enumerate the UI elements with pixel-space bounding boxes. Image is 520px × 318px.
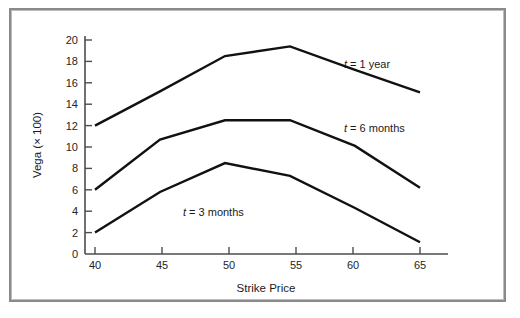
- y-tick-label: 18: [66, 55, 78, 67]
- y-tick-18: 18: [66, 55, 92, 67]
- y-tick-label: 16: [66, 77, 78, 89]
- x-tick-label: 60: [347, 259, 359, 271]
- y-tick-12: 12: [66, 120, 92, 132]
- chart-screenshot: 20 18 16 14 12 10 8 6 4 2: [0, 0, 520, 318]
- series-group: [95, 46, 420, 242]
- x-tick-40: 40: [89, 247, 101, 271]
- axes-group: [85, 36, 448, 254]
- y-tick-0: 0: [72, 248, 78, 260]
- x-axis-ticks: 40 45 50 55 60 65: [89, 247, 426, 271]
- y-tick-label: 2: [72, 227, 78, 239]
- y-tick-label: 4: [72, 205, 78, 217]
- vega-vs-strike-price-line-chart: 20 18 16 14 12 10 8 6 4 2: [11, 10, 504, 300]
- x-axis-title: Strike Price: [237, 282, 296, 294]
- x-tick-55: 55: [290, 247, 302, 271]
- y-axis-title: Vega (× 100): [31, 112, 43, 178]
- y-tick-16: 16: [66, 77, 92, 89]
- series-line-3-months: [95, 163, 420, 242]
- y-tick-6: 6: [72, 184, 92, 196]
- x-tick-label: 65: [414, 259, 426, 271]
- x-tick-label: 55: [290, 259, 302, 271]
- x-tick-65: 65: [414, 247, 426, 271]
- x-tick-45: 45: [156, 247, 168, 271]
- x-tick-label: 50: [223, 259, 235, 271]
- y-tick-label: 0: [72, 248, 78, 260]
- y-tick-20: 20: [66, 34, 92, 46]
- annotation-1-year: t= 1 year: [344, 58, 390, 70]
- y-tick-label: 12: [66, 120, 78, 132]
- y-tick-label: 10: [66, 141, 78, 153]
- x-tick-50: 50: [223, 247, 235, 271]
- x-tick-label: 45: [156, 259, 168, 271]
- y-tick-2: 2: [72, 227, 92, 239]
- y-tick-label: 20: [66, 34, 78, 46]
- y-tick-label: 8: [72, 162, 78, 174]
- y-tick-8: 8: [72, 162, 92, 174]
- annotation-3-months: t= 3 months: [183, 206, 244, 218]
- y-tick-4: 4: [72, 205, 92, 217]
- x-tick-60: 60: [347, 247, 359, 271]
- y-axis-ticks: 20 18 16 14 12 10 8 6 4 2: [66, 34, 92, 260]
- series-annotations: t= 1 year t= 6 months t= 3 months: [183, 58, 405, 218]
- y-tick-label: 14: [66, 98, 78, 110]
- x-tick-label: 40: [89, 259, 101, 271]
- y-tick-14: 14: [66, 98, 92, 110]
- annotation-6-months: t= 6 months: [344, 122, 405, 134]
- y-tick-label: 6: [72, 184, 78, 196]
- y-tick-10: 10: [66, 141, 92, 153]
- figure-frame: 20 18 16 14 12 10 8 6 4 2: [9, 8, 506, 302]
